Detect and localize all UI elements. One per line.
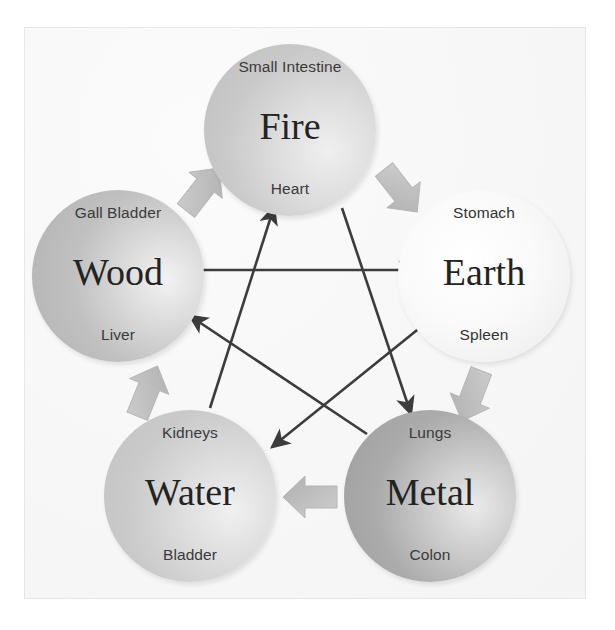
element-node-fire[interactable]: Small Intestine Fire Heart bbox=[204, 44, 376, 216]
element-organ-top-wood: Gall Bladder bbox=[75, 204, 162, 222]
line-arrow-water-to-fire bbox=[210, 207, 274, 408]
element-organ-bottom-water: Bladder bbox=[163, 546, 217, 564]
element-organ-top-earth: Stomach bbox=[453, 204, 515, 222]
element-name-fire: Fire bbox=[259, 107, 320, 145]
element-organ-top-water: Kidneys bbox=[162, 424, 218, 442]
block-arrow-metal-to-water bbox=[283, 476, 337, 518]
element-organ-bottom-wood: Liver bbox=[101, 326, 135, 344]
element-organ-top-metal: Lungs bbox=[409, 424, 452, 442]
element-name-earth: Earth bbox=[443, 253, 525, 291]
element-name-wood: Wood bbox=[73, 253, 163, 291]
element-organ-bottom-earth: Spleen bbox=[460, 326, 509, 344]
element-node-water[interactable]: Kidneys Water Bladder bbox=[104, 410, 276, 582]
element-node-metal[interactable]: Lungs Metal Colon bbox=[344, 410, 516, 582]
element-organ-bottom-metal: Colon bbox=[410, 546, 451, 564]
diagram-canvas: Small Intestine Fire Heart Gall Bladder … bbox=[0, 0, 615, 630]
element-organ-top-fire: Small Intestine bbox=[238, 58, 341, 76]
element-node-wood[interactable]: Gall Bladder Wood Liver bbox=[32, 190, 204, 362]
element-name-metal: Metal bbox=[386, 473, 475, 511]
element-name-water: Water bbox=[145, 473, 235, 511]
element-node-earth[interactable]: Stomach Earth Spleen bbox=[398, 190, 570, 362]
element-organ-bottom-fire: Heart bbox=[271, 180, 309, 198]
